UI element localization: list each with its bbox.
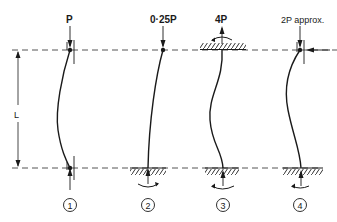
column-3-number: 3 bbox=[221, 201, 226, 211]
column-1: P 1 bbox=[57, 14, 76, 212]
column-4-deflected-shape bbox=[286, 50, 301, 168]
column-3-load-label: 4P bbox=[215, 14, 228, 25]
column-2-load-label: 0·25P bbox=[150, 14, 177, 25]
column-3-deflected-shape bbox=[210, 50, 223, 168]
column-4-number: 4 bbox=[298, 201, 303, 211]
length-label: L bbox=[14, 110, 19, 120]
column-3-fixed-top-hatch bbox=[200, 43, 246, 49]
column-2-number: 2 bbox=[146, 201, 151, 211]
column-4-load-label: 2P approx. bbox=[281, 15, 324, 25]
column-1-number: 1 bbox=[68, 201, 73, 211]
column-1-load-label: P bbox=[66, 14, 73, 25]
column-3: 4P 3 bbox=[200, 14, 246, 212]
column-buckling-diagram: L P 1 0·25P 2 4P bbox=[0, 0, 337, 222]
column-3-bottom-moment-arrow bbox=[212, 186, 234, 189]
column-2-moment-arrow bbox=[138, 184, 158, 187]
column-2: 0·25P 2 bbox=[130, 14, 177, 212]
column-4: 2P approx. 4 bbox=[281, 15, 330, 212]
column-4-fixed-base-hatch bbox=[283, 169, 323, 175]
column-2-deflected-shape bbox=[148, 50, 163, 168]
length-dimension: L bbox=[14, 51, 21, 167]
column-1-deflected-shape bbox=[57, 50, 70, 168]
